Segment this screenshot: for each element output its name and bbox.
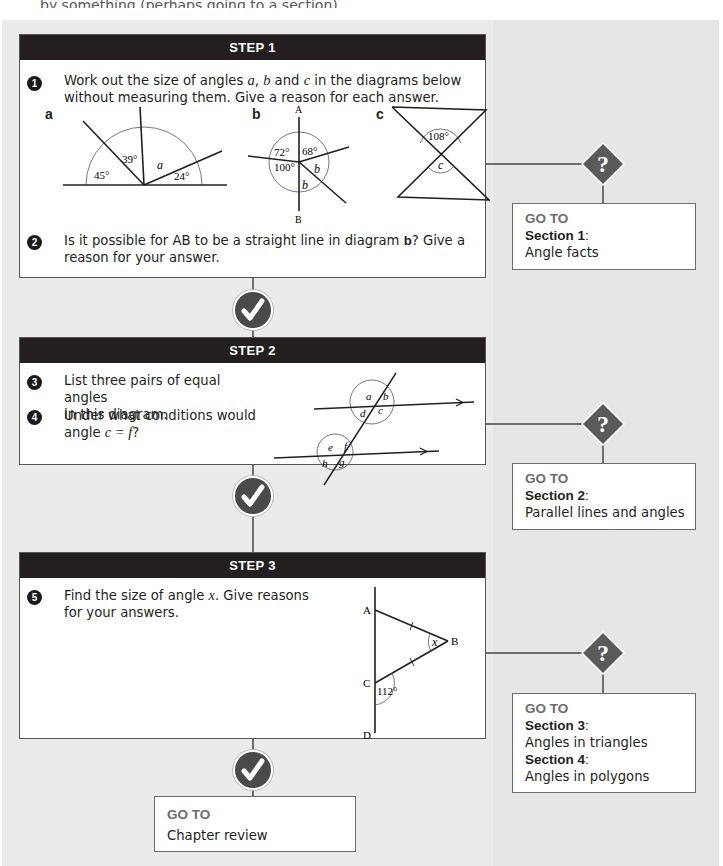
angle-c: c [378,404,383,416]
step-1-header: STEP 1 [20,35,485,60]
point-D: D [363,729,371,739]
goto-box-section-1[interactable]: GO TO Section 1: Angle facts [512,203,696,270]
angle-h: h [322,457,328,469]
angle-label-72: 72° [274,146,289,158]
angle-112: 112° [377,685,398,697]
svg-text:?: ? [597,411,609,437]
angle-label-108: 108° [428,130,449,142]
step-3-box: STEP 3 5 Find the size of angle x. Give … [19,552,486,739]
diagram-c: 108° c [390,105,490,205]
question-5-text: Find the size of angle x. Give reasons f… [64,587,324,621]
angle-label-45: 45° [94,169,109,181]
goto-box-section-2[interactable]: GO TO Section 2: Parallel lines and angl… [512,463,696,530]
question-diamond-icon: ? [581,631,625,675]
angle-label-b1: b [314,162,320,176]
parallel-line-lower [274,451,439,458]
goto-title: Chapter review [167,827,345,844]
goto-heading: GO TO [525,210,685,227]
angle-label-c: c [438,158,444,172]
angle-label-a: a [157,158,163,172]
question-2-text: Is it possible for AB to be a straight l… [64,232,484,266]
angle-a: a [366,390,372,402]
step-3-header: STEP 3 [20,553,485,578]
goto-box-chapter-review[interactable]: GO TO Chapter review [154,796,356,852]
goto-section: Section 3: [525,717,685,734]
bowtie [392,107,489,200]
angle-label-68: 68° [302,145,317,157]
check-circle-icon [233,750,273,790]
question-number-2: 2 [27,235,42,250]
angle-x: x [431,635,438,649]
step-2-box: STEP 2 3 List three pairs of equal angle… [19,337,486,465]
diagram-a-label: a [45,106,53,122]
goto-title: Parallel lines and angles [525,504,685,521]
angle-d: d [360,407,366,419]
point-B: B [451,635,458,647]
diagram-a: 45° 39° a 24° [60,105,230,187]
angle-label-24: 24° [174,170,189,182]
goto-section: Section 4: [525,751,685,768]
goto-box-sections-3-4[interactable]: GO TO Section 3: Angles in triangles Sec… [512,693,696,793]
check-circle-icon [233,476,273,516]
goto-heading: GO TO [525,700,685,717]
top-cut-text: by something (perhaps going to a section… [40,0,338,8]
question-diamond-icon: ? [581,402,625,446]
goto-heading: GO TO [525,470,685,487]
parallel-lines-diagram: a b c d e f g h [264,372,484,487]
diagram-b: A B 72° 68° 100° b b [248,105,368,225]
goto-section: Section 1: [525,227,685,244]
step-1-box: STEP 1 1 Work out the size of angles a, … [19,34,486,278]
step-2-header: STEP 2 [20,338,485,363]
point-C: C [363,677,370,689]
ray-vertical [140,107,144,185]
goto-section: Section 2: [525,487,685,504]
svg-text:?: ? [597,151,609,177]
question-number-1: 1 [27,76,42,91]
goto-title: Angles in polygons [525,768,685,785]
connector-q2-down [602,445,604,465]
point-B: B [295,214,302,225]
question-number-3: 3 [27,375,42,390]
angle-g: g [339,456,345,468]
question-diamond-icon: ? [581,142,625,186]
connector-q1-down [602,185,604,205]
point-A: A [295,105,303,115]
angle-e: e [328,441,333,453]
angle-label-b2: b [302,178,308,192]
triangle-diagram: A B C D x 112° [330,577,480,739]
question-1-text: Work out the size of angles a, b and c i… [64,72,484,106]
goto-title: Angles in triangles [525,734,685,751]
question-number-5: 5 [27,590,42,605]
svg-text:?: ? [597,640,609,666]
goto-title: Angle facts [525,244,685,261]
question-4-text: Under what conditions would angle c = f? [64,407,264,441]
check-circle-icon [233,290,273,330]
connector-q3-down [602,674,604,694]
goto-heading: GO TO [167,806,345,823]
angle-label-39: 39° [122,153,137,165]
angle-b: b [383,390,389,402]
arc-x [428,634,431,651]
point-A: A [363,604,371,616]
diagram-c-label: c [376,106,384,122]
angle-label-100: 100° [274,161,295,173]
question-number-4: 4 [27,410,42,425]
